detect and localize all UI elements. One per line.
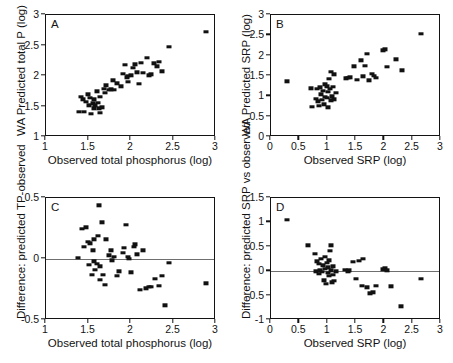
y-tick-label: 3 [7, 9, 39, 20]
data-point [100, 221, 105, 224]
data-point [115, 82, 120, 85]
y-tick [41, 105, 45, 106]
data-point [89, 112, 94, 115]
data-point [102, 91, 107, 94]
data-point [85, 93, 90, 96]
y-tick [266, 74, 270, 75]
panel-d: D00.511.522.53-1-0.500.511.5Observed SRP… [0, 0, 453, 363]
data-point [148, 72, 153, 75]
x-tick-label: 0 [267, 324, 273, 335]
zero-reference-line [271, 271, 439, 272]
data-point [130, 66, 135, 69]
x-tick [411, 319, 412, 323]
x-tick [172, 319, 173, 323]
y-tick-label: 2.5 [7, 39, 39, 50]
data-point [383, 47, 388, 50]
data-point [358, 58, 363, 61]
data-point [348, 76, 353, 79]
y-tick-label: 1 [232, 90, 264, 101]
y-tick [266, 13, 270, 14]
y-tick-label: -0.5 [232, 289, 264, 300]
data-point [93, 104, 98, 107]
data-point [102, 283, 107, 286]
x-tick-label: 0.5 [291, 324, 306, 335]
data-point [355, 78, 360, 81]
data-point [419, 32, 424, 35]
x-tick-label: 2.5 [404, 141, 419, 152]
data-point [318, 257, 323, 260]
data-point [97, 265, 102, 268]
data-point [100, 105, 105, 108]
data-point [385, 65, 390, 68]
x-tick-label: 2 [380, 324, 386, 335]
data-point [351, 65, 356, 68]
y-tick [266, 269, 270, 270]
data-point [329, 70, 334, 73]
panel-a: A11.522.5311.522.53Observed total phosph… [0, 0, 453, 363]
data-point [363, 64, 368, 67]
data-point [123, 223, 128, 226]
data-point [309, 105, 314, 108]
data-point [325, 271, 330, 274]
data-point [157, 60, 162, 63]
x-tick-label: 1 [324, 324, 330, 335]
x-tick-label: 3 [212, 141, 218, 152]
y-tick [41, 257, 45, 258]
data-point [159, 274, 164, 277]
data-point [96, 107, 101, 110]
data-point [167, 45, 172, 48]
data-point [316, 100, 321, 103]
data-point [134, 252, 139, 255]
data-point [368, 291, 373, 294]
data-point [95, 234, 100, 237]
data-point [83, 100, 88, 103]
data-point [330, 281, 335, 284]
x-tick-label: 2 [127, 141, 133, 152]
data-point [86, 104, 91, 107]
data-point [343, 268, 348, 271]
data-point [308, 86, 313, 89]
y-tick-label: 0.5 [232, 110, 264, 121]
data-point [351, 260, 356, 263]
y-tick [266, 135, 270, 136]
x-tick-label: 1.5 [80, 324, 95, 335]
data-point [82, 245, 87, 248]
data-point [326, 266, 331, 269]
panel-letter-b: B [276, 19, 284, 31]
data-point [134, 71, 139, 74]
data-point [159, 69, 164, 72]
x-tick-label: 2.5 [165, 324, 180, 335]
data-point [122, 246, 127, 249]
data-point [163, 304, 168, 307]
data-point [322, 255, 327, 258]
x-tick-label: 1.5 [348, 324, 363, 335]
data-point [333, 91, 338, 94]
data-point [86, 263, 91, 266]
data-point [323, 95, 328, 98]
data-point [330, 273, 335, 276]
y-tick [41, 13, 45, 14]
x-tick [298, 319, 299, 323]
data-point [136, 82, 141, 85]
x-tick [44, 319, 45, 323]
data-point [118, 85, 123, 88]
data-point [167, 261, 172, 264]
y-tick-label: 0 [7, 253, 39, 264]
y-tick [266, 95, 270, 96]
data-point [125, 255, 130, 258]
data-point [316, 262, 321, 265]
x-tick-label: 1 [42, 141, 48, 152]
data-point [325, 261, 330, 264]
data-point [373, 76, 378, 79]
y-tick-label: 0.5 [232, 241, 264, 252]
y-tick-label: 1.5 [7, 100, 39, 111]
x-tick [326, 319, 327, 323]
y-tick-label: 0.5 [7, 192, 39, 203]
y-tick [266, 34, 270, 35]
data-point [327, 249, 332, 252]
data-point [98, 111, 103, 114]
data-point [95, 262, 100, 265]
x-tick-label: 1.5 [348, 141, 363, 152]
data-point [399, 305, 404, 308]
data-point [344, 77, 349, 80]
